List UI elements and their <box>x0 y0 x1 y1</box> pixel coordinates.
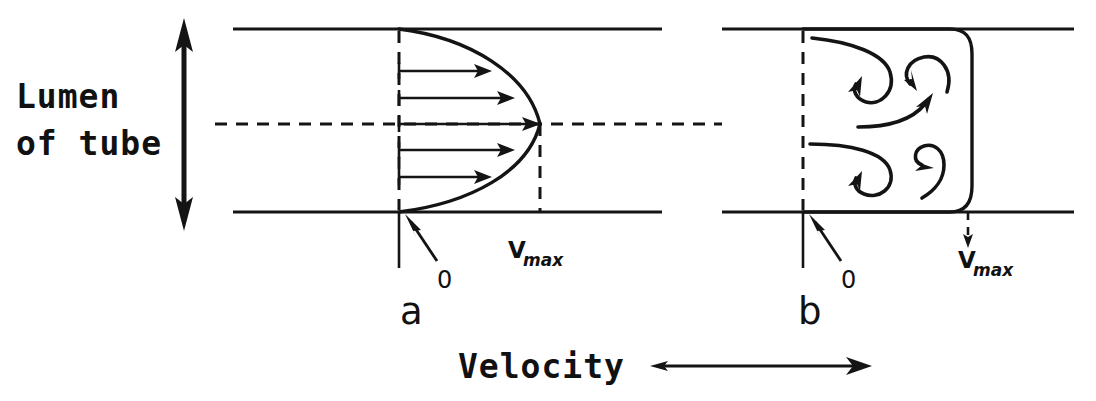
panel-b-eddy-bottom-left <box>810 144 891 196</box>
panel-b-eddy-center-sweep-path <box>858 104 925 127</box>
panel-b-eddy-top-left-path <box>812 38 891 103</box>
flow-profile-figure: Lumen of tube <box>0 0 1096 401</box>
panel-a-vmax-subscript: max <box>523 250 564 270</box>
panel-b-plug-profile <box>803 29 972 212</box>
panel-b-vmax-tick-arrowhead <box>963 234 973 248</box>
panel-b-eddy-bottom-right-head <box>914 161 934 171</box>
panel-b-origin-label: 0 <box>841 266 856 294</box>
lumen-label-line2: of tube <box>16 124 162 163</box>
panel-b-eddy-center-sweep <box>858 93 933 127</box>
panel-b-origin-annotation: 0 <box>803 212 856 294</box>
panel-a-parabolic-profile <box>399 29 540 212</box>
panel-b-turbulent: 0 V max b <box>672 29 1074 333</box>
panel-b-vmax-label-group: V max <box>958 247 1014 280</box>
lumen-label-line1: Lumen <box>16 77 120 116</box>
panel-a-origin-label: 0 <box>437 266 452 294</box>
velocity-label: Velocity <box>458 347 625 386</box>
panel-b-eddy-top-left <box>812 38 891 103</box>
lumen-extent-double-arrow <box>175 18 193 231</box>
panel-a-letter: a <box>400 290 423 333</box>
panel-a-origin-annotation: 0 <box>399 212 452 294</box>
figure-canvas: Lumen of tube <box>0 0 1096 401</box>
panel-b-letter: b <box>798 290 822 333</box>
panel-b-eddy-bottom-right-path <box>915 145 944 198</box>
panel-b-eddy-top-right <box>904 57 949 92</box>
panel-b-eddy-bottom-right <box>914 145 944 198</box>
panel-a-velocity-arrows <box>399 63 541 185</box>
panel-b-vmax-subscript: max <box>973 260 1014 280</box>
panel-a-laminar: 0 V max a <box>215 29 662 333</box>
velocity-axis-label-group: Velocity <box>458 347 872 386</box>
panel-a-vmax-label-group: V max <box>508 237 564 270</box>
lumen-axis-label-group: Lumen of tube <box>16 77 162 163</box>
panel-b-eddies <box>810 38 949 198</box>
panel-b-eddy-bottom-left-path <box>810 144 891 196</box>
